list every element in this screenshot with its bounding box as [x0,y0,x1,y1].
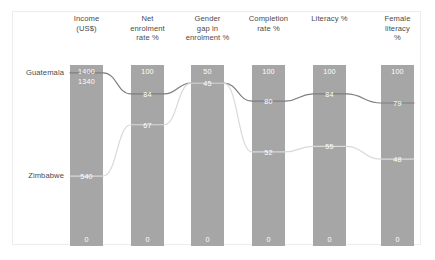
row-label-guatemala: Guatemala [26,68,64,77]
series-row-labels: GuatemalaZimbabwe [0,0,435,260]
row-label-zimbabwe: Zimbabwe [28,171,64,180]
